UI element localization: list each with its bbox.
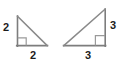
left-triangle-right-angle-marker (18, 38, 26, 46)
right-triangle-vertical-leg-label: 3 (110, 20, 116, 31)
figure-svg (0, 0, 124, 64)
right-triangle-right-angle-marker (95, 36, 105, 46)
left-triangle-vertical-leg-label: 2 (3, 22, 9, 33)
left-triangle-horizontal-leg-label: 2 (30, 50, 36, 61)
right-triangle (64, 9, 106, 46)
left-triangle (17, 16, 48, 46)
right-triangle-horizontal-leg-label: 3 (85, 50, 91, 61)
geometry-figure: 2 2 3 3 (0, 0, 124, 64)
right-triangle-hypotenuse (64, 9, 105, 45)
left-triangle-hypotenuse (18, 16, 48, 45)
